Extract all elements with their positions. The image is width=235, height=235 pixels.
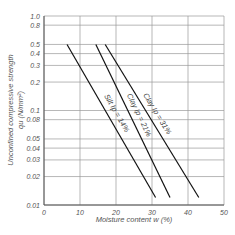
y-tick-label: 0.04 bbox=[26, 145, 40, 152]
y-tick-label: 1.0 bbox=[30, 13, 40, 20]
y-tick-label: 0.8 bbox=[30, 22, 40, 29]
x-tick-label: 10 bbox=[76, 209, 84, 216]
y-tick-label: 0.4 bbox=[30, 50, 40, 57]
series-lines: Silt Ip = 14%Clay Ip = 21%Clay Ip = 31% bbox=[67, 44, 199, 197]
y-tick-label: 0.01 bbox=[26, 202, 40, 209]
y-tick-label: 0.05 bbox=[26, 135, 40, 142]
x-tick-label: 40 bbox=[184, 209, 192, 216]
y-tick-label: 0.3 bbox=[30, 62, 40, 69]
y-tick-label: 0.02 bbox=[26, 173, 40, 180]
x-tick-label: 0 bbox=[42, 209, 46, 216]
y-axis-ticks: 1.00.80.50.40.30.20.10.080.050.040.030.0… bbox=[26, 13, 40, 209]
y-axis-label: Unconfined compressive strength bbox=[6, 54, 15, 165]
x-tick-label: 50 bbox=[220, 209, 228, 216]
y-tick-label: 0.2 bbox=[30, 79, 40, 86]
y-axis-label-units: qu (N/mm²) bbox=[16, 91, 25, 129]
chart: 1.00.80.50.40.30.20.10.080.050.040.030.0… bbox=[0, 0, 235, 235]
y-tick-label: 0.5 bbox=[30, 41, 40, 48]
y-tick-label: 0.1 bbox=[30, 107, 40, 114]
x-axis-label: Moisture content w (%) bbox=[96, 215, 173, 224]
y-tick-label: 0.03 bbox=[26, 156, 40, 163]
y-tick-label: 0.08 bbox=[26, 116, 40, 123]
